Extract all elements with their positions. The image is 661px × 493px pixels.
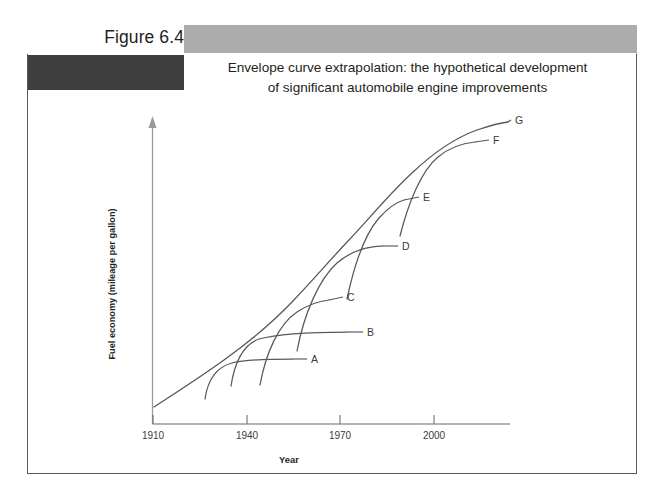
x-tick-label-1: 1940: [236, 430, 259, 441]
curve-label-A: A: [311, 353, 318, 365]
chart-plot-area: 1910 1940 1970 2000 Year Fuel economy (m…: [27, 54, 637, 474]
y-axis-title: Fuel economy (mileage per gallon): [107, 208, 117, 359]
leader-line-G: [508, 120, 511, 122]
x-axis-title: Year: [279, 454, 299, 465]
x-tick-label-2: 1970: [329, 430, 352, 441]
x-tick-label-3: 2000: [423, 430, 446, 441]
figure-number-label: Figure 6.4: [36, 22, 184, 52]
header-accent-bar-gray: [184, 25, 637, 54]
x-axis-ticks: [153, 415, 434, 424]
series-curve-C: [260, 300, 329, 385]
curve-labels: A B C D E F G: [311, 114, 523, 365]
y-axis-arrowhead: [149, 116, 157, 128]
leader-line-C: [329, 297, 343, 300]
curve-label-D: D: [402, 240, 410, 252]
curve-label-G: G: [515, 114, 523, 126]
curve-label-B: B: [367, 326, 374, 338]
curve-label-E: E: [423, 191, 430, 203]
leader-line-F: [475, 140, 489, 142]
envelope-curve-G: [154, 122, 508, 407]
series-curve-E: [347, 200, 404, 299]
x-axis-tick-labels: 1910 1940 1970 2000: [142, 430, 446, 441]
series-curve-F: [400, 142, 475, 236]
curve-label-F: F: [493, 134, 499, 146]
curve-label-C: C: [347, 291, 355, 303]
x-tick-label-0: 1910: [142, 430, 165, 441]
figure-root: Figure 6.4 Envelope curve extrapolation:…: [0, 0, 661, 493]
axes-group: [149, 116, 511, 424]
series-curves: [154, 122, 508, 407]
